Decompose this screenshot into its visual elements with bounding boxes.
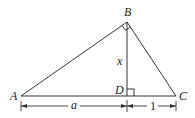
dimension-label-1: 1 (150, 99, 156, 113)
arrowhead-left-a (21, 104, 27, 108)
vertex-label-b: B (124, 5, 132, 19)
side-ab (21, 22, 127, 96)
dimension-label-a: a (71, 98, 77, 112)
arrowhead-right-1 (170, 104, 176, 108)
arrowhead-right-a (121, 104, 127, 108)
arrowhead-left-1 (127, 104, 133, 108)
vertex-label-c: C (179, 89, 188, 103)
altitude-label-x: x (116, 54, 123, 68)
right-angle-marker-b (122, 25, 130, 30)
vertex-label-d: D (114, 83, 124, 97)
triangle-diagram: B A C D x a 1 (0, 0, 195, 118)
vertex-label-a: A (9, 89, 18, 103)
right-angle-marker-d (127, 89, 134, 96)
side-bc (127, 22, 176, 96)
